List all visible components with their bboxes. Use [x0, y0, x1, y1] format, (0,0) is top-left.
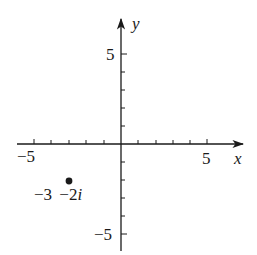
point-label-imag: −2: [59, 185, 77, 204]
point-label-unit: i: [77, 185, 82, 204]
x-axis-label: x: [233, 149, 242, 168]
complex-plane-diagram: −5 5 5 −5 x y −3 −2i: [0, 0, 257, 255]
x-tick-label-neg5: −5: [17, 147, 35, 166]
point-label-real: −3: [34, 185, 52, 204]
y-axis-label: y: [130, 14, 140, 33]
y-tick-label-neg5: −5: [94, 225, 112, 244]
y-tick-label-5: 5: [106, 45, 115, 64]
x-tick-label-5: 5: [202, 149, 211, 168]
point-marker: [66, 178, 73, 185]
point-label: −3 −2i: [34, 185, 82, 204]
